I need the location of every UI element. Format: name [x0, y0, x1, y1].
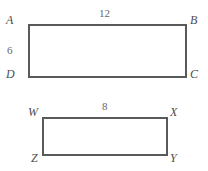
vertex-label-d: D: [6, 68, 15, 80]
figure-canvas: [0, 0, 208, 171]
vertex-label-a: A: [6, 14, 13, 26]
rectangle-wxyz: [43, 118, 167, 155]
vertex-label-c: C: [190, 68, 198, 80]
measure-label-wxyz-top: 8: [102, 101, 108, 112]
rectangle-abcd: [29, 25, 186, 77]
vertex-label-z: Z: [31, 152, 38, 164]
vertex-label-y: Y: [170, 152, 177, 164]
measure-label-abcd-top: 12: [99, 8, 110, 19]
measure-label-abcd-left: 6: [7, 45, 13, 56]
vertex-label-w: W: [28, 106, 38, 118]
vertex-label-b: B: [190, 14, 197, 26]
geometry-figure: A B C D 12 6 W X Y Z 8: [0, 0, 208, 171]
vertex-label-x: X: [170, 106, 177, 118]
